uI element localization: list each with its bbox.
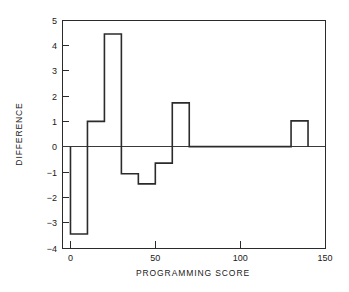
plot-frame (62, 20, 325, 248)
y-tick-label: 3 (52, 66, 57, 76)
y-tick-label: 5 (52, 16, 57, 26)
step-line (70, 34, 308, 234)
y-tick-label: 4 (52, 41, 57, 51)
x-tick-label: 50 (150, 253, 160, 263)
y-axis-ticks (62, 20, 69, 248)
y-tick-label: 0 (52, 142, 57, 152)
x-axis-tick-labels: 0 50 100 150 (68, 253, 333, 263)
y-tick-label: −3 (47, 218, 57, 228)
x-tick-label: 150 (317, 253, 332, 263)
y-tick-label: −2 (47, 193, 57, 203)
y-axis-title: DIFFERENCE (14, 102, 24, 165)
x-tick-label: 100 (233, 253, 248, 263)
y-tick-label: −1 (47, 168, 57, 178)
difference-vs-programming-score-chart: 5 4 3 2 1 0 −1 −2 −3 −4 0 50 100 150 (0, 0, 349, 292)
x-tick-label: 0 (68, 253, 73, 263)
y-tick-label: 2 (52, 92, 57, 102)
difference-step-series (70, 34, 308, 234)
chart-figure: 5 4 3 2 1 0 −1 −2 −3 −4 0 50 100 150 (0, 0, 349, 292)
y-tick-label: 1 (52, 117, 57, 127)
y-axis-tick-labels: 5 4 3 2 1 0 −1 −2 −3 −4 (47, 16, 57, 254)
y-tick-label: −4 (47, 244, 57, 254)
x-axis-title: PROGRAMMING SCORE (136, 268, 250, 278)
x-axis-ticks (71, 241, 326, 248)
